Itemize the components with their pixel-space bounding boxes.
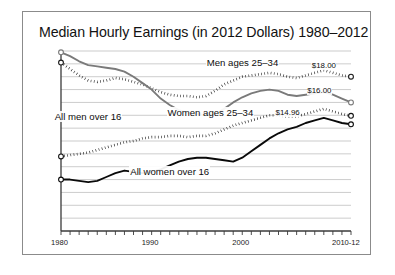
series-endpoint-marker — [349, 100, 354, 105]
x-tick-label: 2010-12 — [332, 238, 360, 247]
x-tick-label: 1980 — [51, 238, 68, 247]
series-endpoint-marker — [349, 122, 354, 127]
value-label: $16.00 — [307, 86, 332, 95]
page-title: Median Hourly Earnings (in 2012 Dollars)… — [39, 24, 368, 40]
chart-canvas — [39, 49, 355, 249]
chart-figure: Median Hourly Earnings (in 2012 Dollars)… — [22, 11, 371, 255]
value-label: $14.96 — [275, 108, 300, 117]
series-label: Women ages 25–34 — [167, 107, 255, 118]
value-label: $18.00 — [311, 61, 336, 70]
series-endpoint-marker — [349, 113, 354, 118]
series-endpoint-marker — [59, 154, 64, 159]
x-tick-label: 2000 — [232, 238, 249, 247]
series-label: All women over 16 — [129, 166, 210, 177]
series-endpoint-marker — [59, 177, 64, 182]
plot-area: 1980199020002010-12Men ages 25–34All men… — [39, 49, 355, 249]
series-endpoint-marker — [349, 74, 354, 79]
series-endpoint-marker — [59, 50, 64, 55]
series-label: Men ages 25–34 — [206, 57, 279, 68]
series-endpoint-marker — [59, 60, 64, 65]
series-label: All men over 16 — [54, 111, 123, 122]
x-tick-label: 1990 — [142, 238, 159, 247]
